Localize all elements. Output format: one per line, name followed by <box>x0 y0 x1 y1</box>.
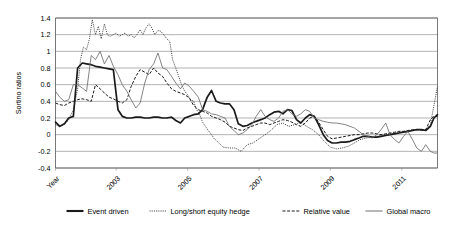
x-tick-label: Year <box>45 174 62 191</box>
x-tick-label: 2003 <box>104 174 122 192</box>
legend-label: Long/short equity hedge <box>171 207 250 216</box>
x-tick-label: 2009 <box>319 174 337 192</box>
y-tick-label: 1.4 <box>41 14 51 23</box>
y-tick-label: 0.2 <box>41 114 51 123</box>
y-tick-label: 0 <box>47 130 51 139</box>
y-axis-title: Sortino ratios <box>14 71 23 114</box>
chart-legend: Event drivenLong/short equity hedgeRelat… <box>67 207 431 216</box>
x-tick-label: 2007 <box>247 174 265 192</box>
data-series <box>56 20 438 153</box>
x-tick-labels: Year20032005200720092011 <box>45 174 408 192</box>
x-tick-label: 2005 <box>176 174 194 192</box>
sortino-ratios-chart: 1.41.210.80.60.40.20-0.2-0.4 Year2003200… <box>0 0 459 230</box>
y-tick-labels: 1.41.210.80.60.40.20-0.2-0.4 <box>38 14 50 173</box>
series-line <box>56 51 438 153</box>
y-tick-label: 1.2 <box>41 30 51 39</box>
chart-canvas: 1.41.210.80.60.40.20-0.2-0.4 Year2003200… <box>0 0 459 230</box>
legend-label: Relative value <box>304 207 350 216</box>
y-tick-label: -0.2 <box>38 147 50 156</box>
x-tick-label: 2011 <box>390 174 407 191</box>
y-tick-label: 0.6 <box>41 80 51 89</box>
y-tick-label: 1 <box>47 47 51 56</box>
series-line <box>56 20 438 152</box>
y-tick-label: 0.8 <box>41 64 51 73</box>
legend-label: Event driven <box>88 207 129 216</box>
series-line <box>56 68 438 139</box>
legend-label: Global macro <box>387 207 431 216</box>
y-tick-label: -0.4 <box>38 164 50 173</box>
y-tick-label: 0.4 <box>41 97 51 106</box>
y-axis-title: Sortino ratios <box>14 71 23 114</box>
